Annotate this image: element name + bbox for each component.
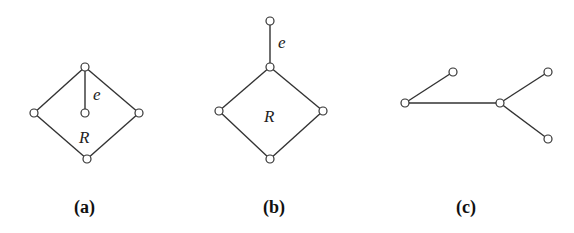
vertex <box>449 68 457 76</box>
edge <box>500 72 548 103</box>
region-label-r: R <box>263 107 275 126</box>
edge <box>87 113 139 159</box>
caption-b: (b) <box>263 197 285 218</box>
vertex <box>30 109 38 117</box>
edge <box>219 67 270 111</box>
vertex <box>401 99 409 107</box>
vertex <box>544 135 552 143</box>
edge <box>405 72 453 103</box>
vertex <box>81 63 89 71</box>
region-label-r: R <box>78 128 90 147</box>
edge <box>270 111 323 159</box>
panel-b: e R (b) <box>215 17 327 218</box>
edge-label-e: e <box>278 33 286 52</box>
edge <box>270 67 323 111</box>
vertex <box>496 99 504 107</box>
edge <box>500 103 548 139</box>
panel-c: (c) <box>401 68 552 218</box>
edge-label-e: e <box>93 85 101 104</box>
panel-a: e R (a) <box>30 63 143 218</box>
vertex <box>266 63 274 71</box>
edge <box>219 111 270 159</box>
vertex <box>81 109 89 117</box>
edge <box>34 67 85 113</box>
caption-c: (c) <box>456 197 476 218</box>
vertex <box>83 155 91 163</box>
vertex <box>266 17 274 25</box>
figure-canvas: e R (a) e R (b) (c) <box>0 0 574 233</box>
vertex <box>266 155 274 163</box>
vertex <box>319 107 327 115</box>
caption-a: (a) <box>74 197 95 218</box>
vertex <box>544 68 552 76</box>
vertex <box>215 107 223 115</box>
vertex <box>135 109 143 117</box>
